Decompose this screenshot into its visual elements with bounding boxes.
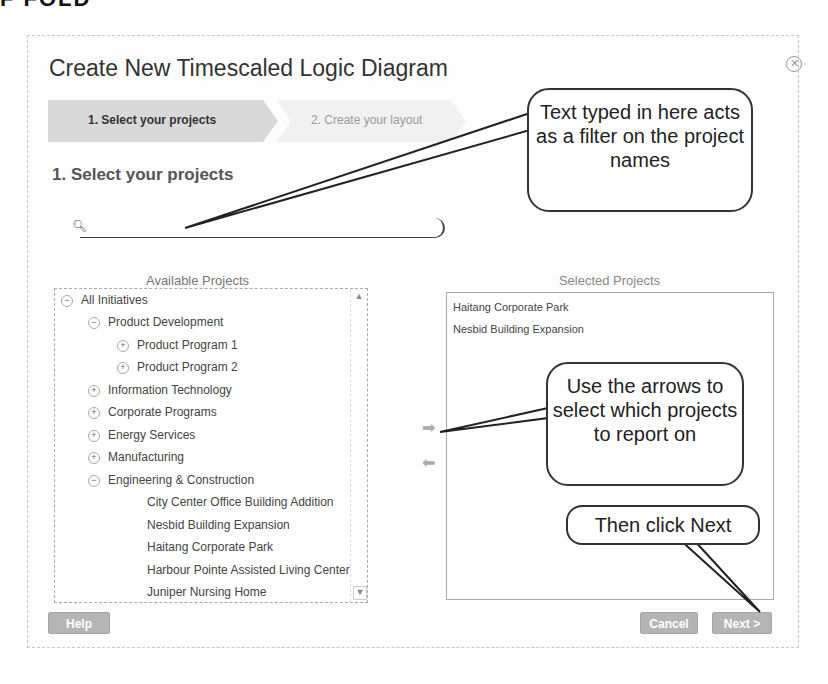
callout-next: Then click Next xyxy=(566,505,760,545)
callout-arrows: Use the arrows to select which projects … xyxy=(546,362,744,486)
callout-filter: Text typed in here acts as a filter on t… xyxy=(527,88,753,212)
